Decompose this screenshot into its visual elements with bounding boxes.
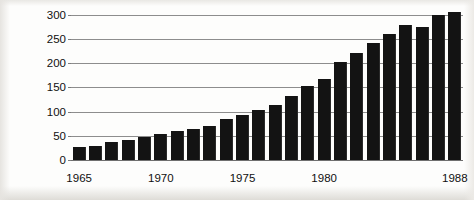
bar-1965 bbox=[73, 147, 86, 160]
bar-1973 bbox=[203, 126, 216, 160]
bar-1986 bbox=[416, 27, 429, 160]
bar-1987 bbox=[432, 15, 445, 160]
x-tick-label-1965: 1965 bbox=[66, 172, 92, 184]
x-tick-label-1980: 1980 bbox=[311, 172, 337, 184]
y-tick-label-150: 150 bbox=[24, 81, 66, 93]
plot-area bbox=[71, 10, 463, 160]
bar-1982 bbox=[350, 53, 363, 160]
bar-1971 bbox=[171, 131, 184, 160]
scan-edge-right bbox=[464, 0, 474, 200]
bar-1983 bbox=[367, 43, 380, 160]
y-tick-label-100: 100 bbox=[24, 106, 66, 118]
gridline-0 bbox=[71, 160, 463, 161]
bar-1980 bbox=[318, 79, 331, 160]
bar-1978 bbox=[285, 96, 298, 160]
bar-1966 bbox=[89, 146, 102, 160]
bar-1977 bbox=[269, 105, 282, 160]
bar-1968 bbox=[122, 140, 135, 160]
bar-1988 bbox=[448, 12, 461, 160]
scan-edge-left bbox=[0, 0, 10, 200]
y-tick-label-0: 0 bbox=[24, 154, 66, 166]
bar-1974 bbox=[220, 119, 233, 160]
x-tick-label-1970: 1970 bbox=[148, 172, 174, 184]
scan-edge-bottom bbox=[0, 186, 474, 200]
bar-1981 bbox=[334, 62, 347, 160]
bar-1975 bbox=[236, 115, 249, 160]
y-tick-label-250: 250 bbox=[24, 33, 66, 45]
bar-1967 bbox=[105, 142, 118, 160]
bar-chart-figure: Index: 1975 = 100 050100150200250300 196… bbox=[0, 0, 474, 200]
x-tick-label-1988: 1988 bbox=[442, 172, 468, 184]
bars-layer bbox=[71, 10, 463, 160]
bar-1979 bbox=[301, 86, 314, 160]
scan-edge-top bbox=[0, 0, 474, 6]
y-tick-label-200: 200 bbox=[24, 57, 66, 69]
bar-1984 bbox=[383, 34, 396, 160]
x-tick-label-1975: 1975 bbox=[230, 172, 256, 184]
bar-1969 bbox=[138, 137, 151, 160]
bar-1972 bbox=[187, 129, 200, 160]
y-tick-label-300: 300 bbox=[24, 9, 66, 21]
bar-1985 bbox=[399, 25, 412, 160]
y-tick-label-50: 50 bbox=[24, 130, 66, 142]
bar-1970 bbox=[154, 134, 167, 160]
bar-1976 bbox=[252, 110, 265, 160]
